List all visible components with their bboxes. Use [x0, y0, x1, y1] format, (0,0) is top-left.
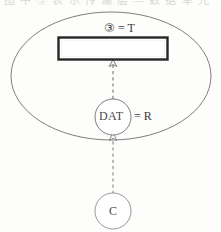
figure-canvas: 图 中 ③ 表 示 传 输 层 — 数 据 单 元 ③ = T DAT = R … — [0, 0, 221, 232]
dat-node-label: DAT — [99, 109, 124, 124]
arrow-c-to-dat — [109, 133, 117, 195]
c-node-label: C — [109, 204, 117, 219]
dat-node-annotation: = R — [134, 109, 152, 124]
arrow-dat-to-box — [109, 60, 117, 100]
top-box-label: ③ = T — [104, 21, 135, 36]
